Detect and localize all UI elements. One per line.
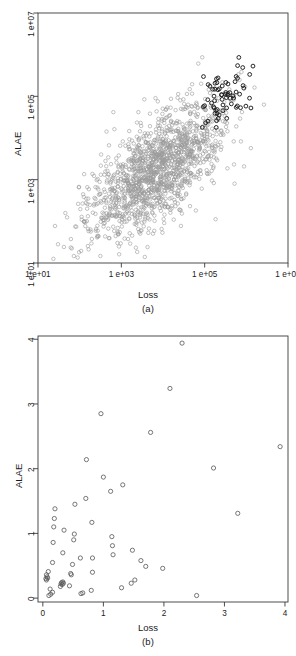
y-tick-label: 1 [27, 532, 36, 576]
y-tick-label: 1 e+01 [27, 262, 36, 306]
two-panel-scatter-figure: Loss ALAE (a) Loss ALAE (b) 1 e+011 e+03… [0, 0, 296, 656]
y-tick-label: 0 [27, 597, 36, 641]
y-tick-label: 2 [27, 467, 36, 511]
panel-b-caption: (b) [0, 636, 296, 647]
y-tick-label: 3 [27, 402, 36, 446]
y-tick-label: 4 [27, 338, 36, 382]
panel-a-y-axis-title: ALAE [12, 132, 23, 156]
panel-b-linear-scatter [0, 322, 296, 656]
x-tick-label: 3 [194, 609, 254, 618]
x-tick-label: 4 [255, 609, 296, 618]
x-tick-label: 1 e+01 [8, 270, 68, 279]
panel-b-plot-area [0, 322, 296, 656]
panel-b-x-axis-title: Loss [0, 622, 296, 633]
x-tick-label: 1 e+07 [258, 270, 296, 279]
x-tick-label: 0 [13, 609, 73, 618]
panel-a-caption: (a) [0, 303, 296, 314]
y-tick-label: 1 e+07 [27, 12, 36, 56]
x-tick-label: 1 [73, 609, 133, 618]
y-tick-label: 1 e+05 [27, 95, 36, 139]
x-tick-label: 1 e+03 [91, 270, 151, 279]
panel-b-y-axis-title: ALAE [13, 464, 24, 488]
y-tick-label: 1 e+03 [27, 178, 36, 222]
x-tick-label: 1 e+05 [175, 270, 235, 279]
panel-a-x-axis-title: Loss [0, 289, 296, 300]
x-tick-label: 2 [134, 609, 194, 618]
